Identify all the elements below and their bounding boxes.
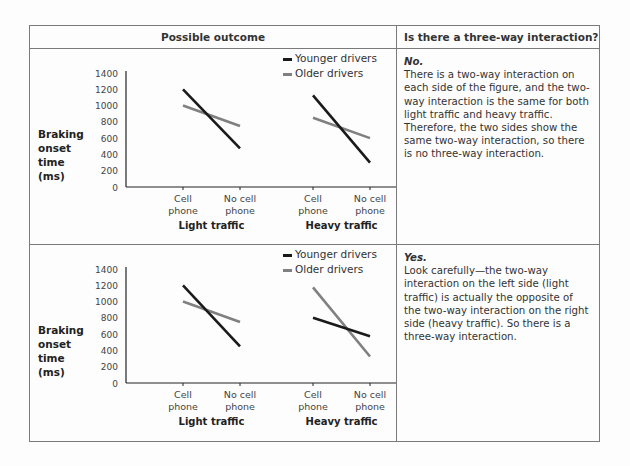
x-tick-label: Cell [174, 193, 192, 204]
chart-cell: Brakingonsettime(ms)02004006008001000120… [30, 245, 397, 441]
y-axis-label: Braking [38, 324, 84, 336]
x-tick-label: phone [225, 401, 255, 412]
x-tick-label: No cell [354, 193, 386, 204]
y-tick-label: 200 [101, 362, 118, 372]
y-axis-label: (ms) [38, 366, 65, 378]
x-tick-label: Cell [304, 389, 322, 400]
y-tick-label: 1200 [95, 281, 118, 291]
legend-swatch-older [283, 269, 292, 272]
x-tick-label: phone [298, 205, 328, 216]
legend-swatch-older [283, 73, 292, 76]
answer-cell: No. There is a two-way interaction on ea… [404, 55, 592, 161]
outcome-table: Possible outcome Is there a three-way in… [29, 25, 600, 442]
series-line-light [183, 106, 240, 126]
legend-younger: Younger drivers [294, 52, 377, 64]
answer-text: Look carefully—the two-way interaction o… [404, 264, 592, 343]
legend-younger: Younger drivers [294, 248, 377, 260]
series-line-heavy [313, 95, 370, 162]
table-row: Brakingonsettime(ms)02004006008001000120… [30, 49, 599, 245]
x-tick-label: No cell [224, 193, 256, 204]
y-tick-label: 200 [101, 166, 118, 176]
group-label: Light traffic [179, 220, 245, 231]
x-tick-label: phone [298, 401, 328, 412]
header-possible-outcome: Possible outcome [30, 26, 397, 48]
answer-cell: Yes. Look carefully—the two-way interact… [404, 251, 592, 343]
y-tick-label: 1000 [95, 297, 118, 307]
legend-swatch-younger [283, 58, 292, 61]
legend-swatch-younger [283, 254, 292, 257]
y-tick-label: 0 [112, 379, 118, 389]
table-header: Possible outcome Is there a three-way in… [30, 26, 599, 49]
series-line-light [183, 285, 240, 346]
series-line-light [183, 89, 240, 148]
y-axis-label: Braking [38, 128, 84, 140]
y-axis-label: (ms) [38, 170, 65, 182]
y-axis-label: onset [38, 142, 71, 154]
table-row: Brakingonsettime(ms)02004006008001000120… [30, 245, 599, 441]
x-tick-label: phone [355, 205, 385, 216]
series-line-light [183, 302, 240, 322]
y-axis-label: onset [38, 338, 71, 350]
y-tick-label: 600 [101, 134, 118, 144]
group-label: Heavy traffic [306, 416, 378, 427]
group-label: Light traffic [179, 416, 245, 427]
x-tick-label: Cell [174, 389, 192, 400]
y-tick-label: 0 [112, 183, 118, 193]
x-tick-label: phone [355, 401, 385, 412]
y-tick-label: 600 [101, 330, 118, 340]
y-axis-label: time [38, 352, 65, 364]
y-tick-label: 400 [101, 150, 118, 160]
line-chart-outcome-2: Brakingonsettime(ms)02004006008001000120… [30, 245, 397, 441]
y-tick-label: 400 [101, 346, 118, 356]
y-tick-label: 1400 [95, 265, 118, 275]
y-tick-label: 1400 [95, 69, 118, 79]
group-label: Heavy traffic [306, 220, 378, 231]
x-tick-label: phone [168, 401, 198, 412]
legend-older: Older drivers [295, 67, 363, 79]
y-axis-label: time [38, 156, 65, 168]
y-tick-label: 800 [101, 117, 118, 127]
answer-text: There is a two-way interaction on each s… [404, 68, 592, 160]
x-tick-label: Cell [304, 193, 322, 204]
y-tick-label: 1000 [95, 101, 118, 111]
x-tick-label: No cell [354, 389, 386, 400]
answer-title: No. [404, 55, 592, 68]
y-tick-label: 800 [101, 313, 118, 323]
header-three-way-question: Is there a three-way interaction? [404, 26, 598, 48]
x-tick-label: phone [168, 205, 198, 216]
y-tick-label: 1200 [95, 85, 118, 95]
legend-older: Older drivers [295, 263, 363, 275]
x-tick-label: No cell [224, 389, 256, 400]
answer-title: Yes. [404, 251, 592, 264]
chart-cell: Brakingonsettime(ms)02004006008001000120… [30, 49, 397, 244]
x-tick-label: phone [225, 205, 255, 216]
line-chart-outcome-1: Brakingonsettime(ms)02004006008001000120… [30, 49, 397, 245]
